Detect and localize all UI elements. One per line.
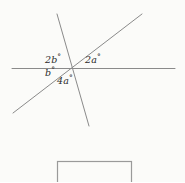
degree-icon: ° <box>57 52 61 61</box>
answer-box-outline[interactable] <box>58 162 132 183</box>
degree-icon: ° <box>51 65 55 74</box>
diagonal-line <box>13 14 142 113</box>
angle-label-4a: 4a° <box>57 74 73 86</box>
degree-icon: ° <box>69 73 73 82</box>
lines-canvas <box>0 0 185 182</box>
degree-icon: ° <box>97 52 101 61</box>
geometry-figure: 2b° 2a° b° 4a° <box>0 0 185 182</box>
angle-label-b: b° <box>45 66 55 78</box>
steep-line <box>57 14 89 126</box>
angle-label-2b: 2b° <box>45 53 61 65</box>
angle-label-2a: 2a° <box>85 53 101 65</box>
